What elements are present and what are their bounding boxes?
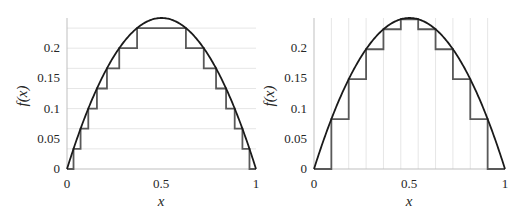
y-tick-label: 0.05 — [284, 131, 307, 146]
x-tick-label: 0.5 — [153, 176, 169, 191]
y-tick-label: 0 — [54, 161, 61, 176]
y-tick-label: 0.2 — [291, 40, 307, 55]
figure: 0 0.05 0.1 0.15 0.2 0 0.5 1 x f(x) 0 0.0… — [0, 0, 519, 218]
y-tick-label: 0.1 — [291, 101, 307, 116]
y-tick-label: 0.05 — [37, 131, 60, 146]
x-tick-label: 0 — [64, 176, 71, 191]
left-x-ticks: 0 0.5 1 — [64, 176, 260, 191]
left-curve — [67, 18, 256, 169]
left-x-axis-label: x — [157, 193, 165, 209]
left-y-ticks: 0 0.05 0.1 0.15 0.2 — [37, 40, 60, 176]
right-x-ticks: 0 0.5 1 — [311, 176, 509, 191]
right-y-ticks: 0 0.05 0.1 0.15 0.2 — [284, 40, 307, 176]
y-tick-label: 0 — [301, 161, 308, 176]
x-tick-label: 0.5 — [401, 176, 417, 191]
right-plot: 0 0.05 0.1 0.15 0.2 0 0.5 1 x f(x) — [261, 18, 508, 209]
left-plot: 0 0.05 0.1 0.15 0.2 0 0.5 1 x f(x) — [14, 18, 259, 209]
x-tick-label: 1 — [253, 176, 260, 191]
right-x-axis-label: x — [405, 193, 413, 209]
y-tick-label: 0.15 — [37, 70, 60, 85]
left-staircase — [67, 28, 256, 169]
right-curve — [314, 18, 505, 169]
right-y-axis-label: f(x) — [261, 86, 278, 107]
left-grid — [67, 28, 256, 149]
right-grid — [331, 18, 487, 169]
x-tick-label: 1 — [502, 176, 509, 191]
y-tick-label: 0.2 — [44, 40, 60, 55]
left-y-axis-label: f(x) — [14, 86, 31, 107]
y-tick-label: 0.15 — [284, 70, 307, 85]
y-tick-label: 0.1 — [44, 101, 60, 116]
x-tick-label: 0 — [311, 176, 318, 191]
